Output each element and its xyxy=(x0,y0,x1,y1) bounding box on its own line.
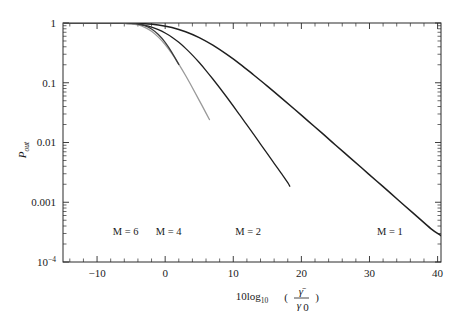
x-tick-label: 0 xyxy=(162,267,168,279)
svg-text:): ) xyxy=(315,291,319,304)
curve-annotation-m2: M = 2 xyxy=(235,226,261,237)
x-tick-label: 30 xyxy=(364,267,376,279)
y-tick-label: 0.1 xyxy=(42,77,56,89)
x-tick-label: 10 xyxy=(228,267,240,279)
outage-probability-chart: −1001020304010.10.010.00110−4 M = 1M = 2… xyxy=(0,0,466,322)
curve-annotation-m1: M = 1 xyxy=(377,226,403,237)
x-tick-label: 20 xyxy=(296,267,308,279)
curve-annotation-m6: M = 6 xyxy=(113,226,139,237)
svg-text:(: ( xyxy=(284,291,288,304)
svg-text:γ: γ xyxy=(297,299,302,311)
x-tick-label: 40 xyxy=(432,267,444,279)
svg-text:0: 0 xyxy=(303,301,309,313)
y-tick-label: 0.01 xyxy=(37,136,56,148)
y-tick-label: 1 xyxy=(51,17,57,29)
x-tick-label: −10 xyxy=(88,267,106,279)
curve-annotation-m4: M = 4 xyxy=(156,226,183,237)
y-tick-label: 0.001 xyxy=(31,196,56,208)
figure-container: −1001020304010.10.010.00110−4 M = 1M = 2… xyxy=(0,0,466,322)
